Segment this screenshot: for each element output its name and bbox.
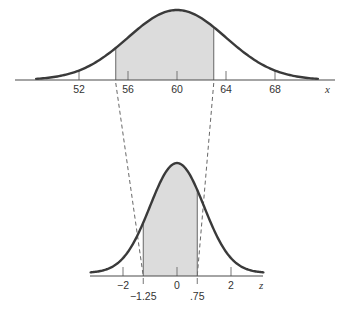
tick-label: 52: [73, 83, 85, 95]
top-axis-variable-label: x: [324, 83, 330, 95]
tick-label: 64: [220, 83, 232, 95]
tick-label: 0: [174, 279, 180, 291]
marker-label: .75: [190, 290, 205, 302]
mapping-line-left: [116, 83, 144, 276]
bottom-shaded-area: [143, 163, 197, 276]
bottom-axis-variable-label: z: [258, 279, 264, 291]
bottom-standard-normal-plot: −202−1.25.75 z: [90, 163, 264, 302]
marker-label: −1.25: [130, 290, 157, 302]
mapping-line-right: [197, 83, 214, 276]
top-shaded-area: [116, 10, 214, 80]
normal-standardization-diagram: 5256606468 x −202−1.25.75 z: [0, 0, 346, 311]
tick-label: −2: [117, 279, 129, 291]
top-normal-plot: 5256606468 x: [15, 10, 335, 95]
top-tick-labels: 5256606468: [73, 83, 281, 95]
top-ticks: [79, 71, 275, 80]
tick-label: 56: [122, 83, 134, 95]
bottom-tick-labels: −202−1.25.75: [117, 279, 234, 302]
tick-label: 2: [228, 279, 234, 291]
tick-label: 60: [171, 83, 183, 95]
tick-label: 68: [269, 83, 281, 95]
